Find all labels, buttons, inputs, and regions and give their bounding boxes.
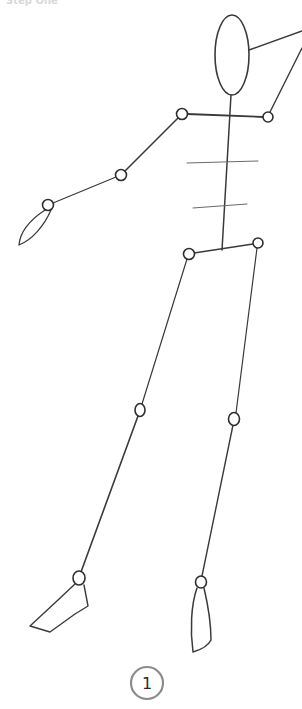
cropped-title-text: Step One [6, 0, 58, 6]
left-forearm-line [53, 177, 116, 203]
left-upper-arm-line [125, 118, 178, 171]
right-hip-joint [253, 238, 263, 248]
right-upper-arm-line [270, 48, 302, 112]
head-oval [215, 15, 249, 95]
stick-figure-drawing: Step One 1 [0, 0, 302, 709]
right-knee-joint [229, 413, 240, 426]
right-foot-shape [191, 588, 211, 652]
left-elbow-joint [116, 170, 127, 181]
left-thigh-line [142, 259, 187, 404]
left-hand-shape [19, 210, 51, 245]
shoulder-line [187, 114, 263, 117]
right-shin-line [202, 425, 233, 576]
left-ankle-joint [73, 571, 85, 585]
rib-line-upper [187, 161, 258, 163]
step-badge-label: 1 [142, 674, 152, 693]
left-shin-line [81, 416, 138, 572]
rib-line-lower [193, 204, 247, 208]
left-shoulder-joint [177, 109, 188, 120]
step-number-badge: 1 [131, 667, 163, 699]
right-ankle-joint [196, 576, 207, 588]
raised-forearm-line [249, 31, 302, 50]
left-hip-joint [184, 249, 195, 260]
left-foot-shape [30, 584, 88, 632]
right-shoulder-joint [263, 112, 273, 122]
left-wrist-joint [43, 200, 54, 211]
right-thigh-line [236, 248, 257, 413]
spine-line [222, 95, 231, 250]
left-knee-joint [135, 404, 145, 417]
hip-line [194, 244, 253, 253]
